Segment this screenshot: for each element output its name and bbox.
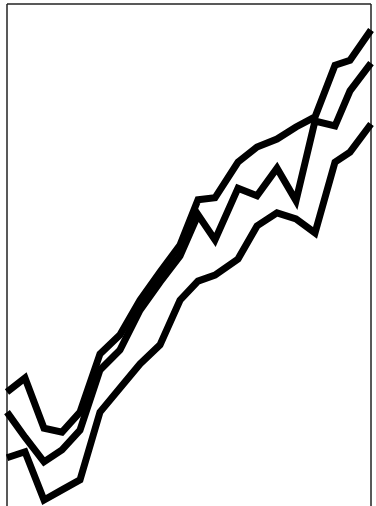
series-layer	[7, 30, 371, 500]
series-bottom-line	[7, 124, 371, 500]
series-middle-line	[7, 63, 371, 462]
line-chart	[0, 0, 376, 506]
